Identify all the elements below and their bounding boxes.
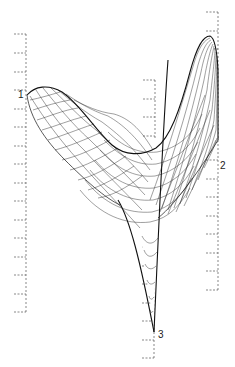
surface-fill bbox=[27, 37, 218, 330]
figure-caption bbox=[4, 358, 231, 367]
axis-1 bbox=[14, 34, 26, 312]
axis-label-2: 2 bbox=[220, 161, 226, 171]
axis-label-1: 1 bbox=[18, 90, 24, 100]
axis-middle bbox=[143, 80, 155, 140]
wireframe-surface-figure bbox=[0, 0, 235, 367]
axis-label-3: 3 bbox=[158, 330, 164, 340]
